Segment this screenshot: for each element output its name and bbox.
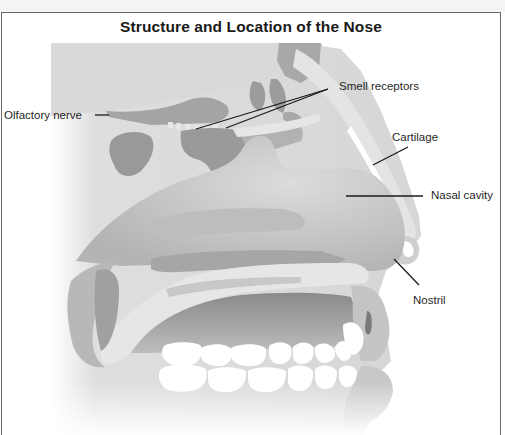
page-edge-strip [0,0,505,12]
label-nasal-cavity: Nasal cavity [431,189,493,201]
figure-title: Structure and Location of the Nose [2,18,500,36]
label-smell-receptors: Smell receptors [339,80,419,92]
label-cartilage: Cartilage [392,131,438,143]
label-nostril: Nostril [413,294,446,306]
nose-anatomy-illustration [1,12,501,435]
figure-frame: Structure and Location of the Nose Olfac… [1,12,501,435]
label-olfactory-nerve: Olfactory nerve [4,109,82,121]
